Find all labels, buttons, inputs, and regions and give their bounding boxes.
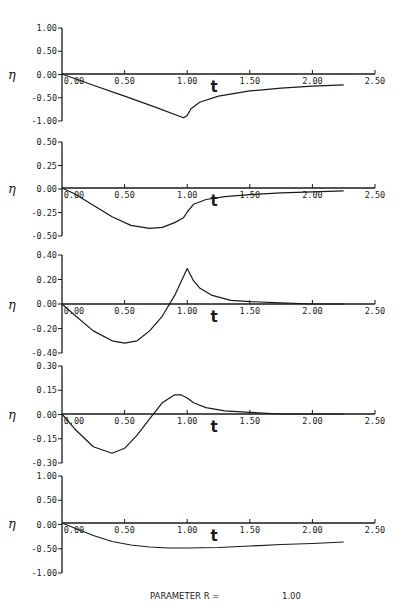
y-tick-label: -0.15 [31, 434, 57, 444]
y-tick-label: -0.25 [31, 208, 57, 218]
y-tick-label: 0.00 [37, 410, 57, 420]
y-tick-label: 0.25 [37, 161, 57, 171]
parameter-value: 1.00 [282, 591, 301, 601]
y-tick-label: -0.30 [31, 458, 57, 468]
y-axis-label: η [8, 181, 16, 196]
x-tick-label: 1.00 [177, 190, 197, 200]
y-tick-label: 1.00 [37, 23, 57, 33]
y-tick-label: 0.15 [37, 385, 57, 395]
y-tick-label: 0.20 [37, 275, 57, 285]
x-axis-label: t [210, 308, 217, 326]
y-tick-label: 0.50 [37, 495, 57, 505]
y-tick-label: 0.00 [37, 184, 57, 194]
y-tick-label: 0.50 [37, 46, 57, 56]
x-tick-label: 0.50 [114, 306, 134, 316]
y-tick-label: 0.40 [37, 250, 57, 260]
y-tick-label: 0.00 [37, 299, 57, 309]
x-tick-label: 1.50 [240, 306, 260, 316]
y-axis-label: η [8, 67, 16, 82]
y-axis-label: η [8, 407, 16, 422]
y-tick-label: -1.00 [31, 568, 57, 578]
x-tick-label: 1.50 [240, 525, 260, 535]
panel-1: 1.000.500.00-0.50-1.000.000.501.001.502.… [8, 23, 385, 126]
x-tick-label: 0.50 [114, 416, 134, 426]
x-tick-label: 2.00 [302, 306, 322, 316]
y-tick-label: 0.00 [37, 520, 57, 530]
y-tick-label: 0.30 [37, 361, 57, 371]
y-tick-label: -0.20 [31, 324, 57, 334]
x-tick-label: 1.50 [240, 76, 260, 86]
x-tick-label: 2.50 [365, 416, 385, 426]
y-tick-label: 1.00 [37, 471, 57, 481]
panel-4: 0.300.150.00-0.15-0.300.000.501.001.502.… [8, 361, 385, 468]
x-tick-label: 0.50 [114, 190, 134, 200]
x-tick-label: 1.00 [177, 306, 197, 316]
x-axis-label: t [210, 527, 217, 545]
y-tick-label: -0.40 [31, 348, 57, 358]
y-tick-label: -0.50 [31, 93, 57, 103]
x-tick-label: 1.00 [177, 76, 197, 86]
x-tick-label: 2.00 [302, 416, 322, 426]
x-tick-label: 1.00 [177, 416, 197, 426]
x-tick-label: 2.00 [302, 525, 322, 535]
y-tick-label: 0.50 [37, 137, 57, 147]
x-tick-label: 2.50 [365, 525, 385, 535]
panel-5: 1.000.500.00-0.50-1.000.000.501.001.502.… [8, 471, 385, 578]
x-tick-label: 1.50 [240, 416, 260, 426]
x-tick-label: 2.00 [302, 76, 322, 86]
x-tick-label: 1.00 [177, 525, 197, 535]
y-tick-label: 0.00 [37, 70, 57, 80]
x-tick-label: 0.00 [64, 525, 84, 535]
x-tick-label: 0.00 [64, 416, 84, 426]
x-axis-label: t [210, 192, 217, 210]
y-axis-label: η [8, 516, 16, 531]
stacked-line-charts: 1.000.500.00-0.50-1.000.000.501.001.502.… [0, 0, 410, 611]
x-axis-label: t [210, 418, 217, 436]
x-axis-label: t [210, 78, 217, 96]
y-tick-label: -0.50 [31, 231, 57, 241]
parameter-label: PARAMETER R = [150, 591, 219, 601]
x-tick-label: 0.50 [114, 76, 134, 86]
x-tick-label: 2.50 [365, 190, 385, 200]
y-tick-label: -1.00 [31, 116, 57, 126]
y-axis-label: η [8, 297, 16, 312]
x-tick-label: 2.50 [365, 306, 385, 316]
y-tick-label: -0.50 [31, 544, 57, 554]
x-tick-label: 0.50 [114, 525, 134, 535]
panel-3: 0.400.200.00-0.20-0.400.000.501.001.502.… [8, 250, 385, 358]
panel-2: 0.500.250.00-0.25-0.500.000.501.001.502.… [8, 137, 385, 241]
x-tick-label: 2.50 [365, 76, 385, 86]
